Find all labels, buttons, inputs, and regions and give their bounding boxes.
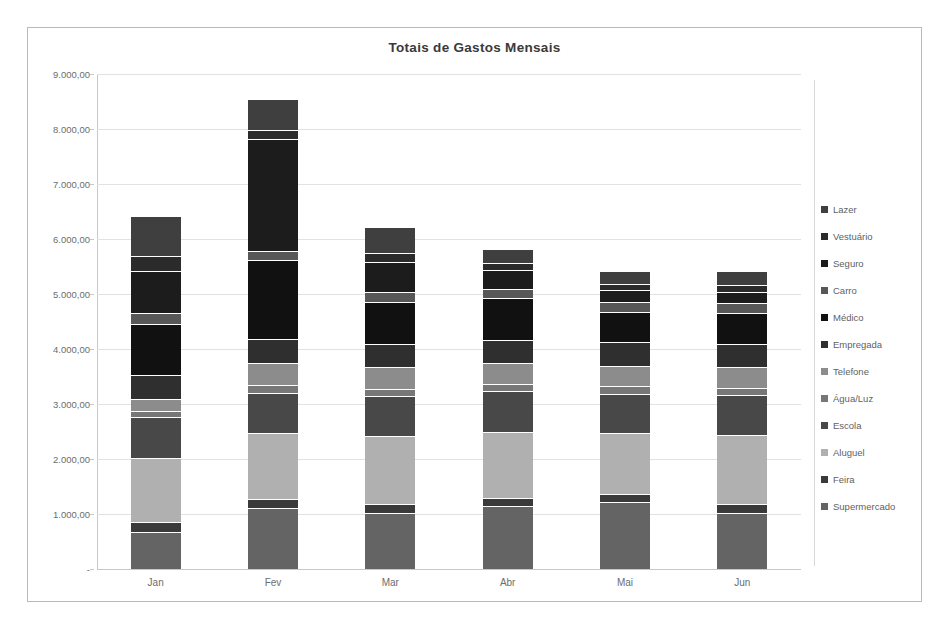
bar-segment[interactable] [483,340,533,363]
bar-segment[interactable] [131,399,181,411]
bar-jan[interactable] [131,216,181,569]
bar-segment[interactable] [717,271,767,285]
bar-segment[interactable] [365,344,415,367]
bar-segment[interactable] [131,532,181,569]
bar-segment[interactable] [600,386,650,393]
bar-segment[interactable] [483,432,533,498]
bar-segment[interactable] [248,99,298,130]
bar-segment[interactable] [131,417,181,458]
bar-segment[interactable] [717,285,767,292]
bar-segment[interactable] [365,396,415,437]
bar-segment[interactable] [600,302,650,312]
x-tick-label: Fev [233,577,313,588]
bar-segment[interactable] [365,253,415,261]
bar-mai[interactable] [600,271,650,569]
bar-segment[interactable] [365,262,415,292]
bar-segment[interactable] [248,130,298,139]
bar-segment[interactable] [365,302,415,344]
bar-segment[interactable] [600,342,650,365]
legend-item-label: Lazer [833,204,857,215]
legend-item-supermercado[interactable]: Supermercado [821,493,931,520]
bar-segment[interactable] [248,499,298,508]
bar-segment[interactable] [600,502,650,569]
y-tick-label: 8.000,00 [53,124,90,135]
bar-segment[interactable] [600,394,650,434]
bar-segment[interactable] [717,504,767,513]
legend-swatch-icon [821,260,828,267]
bar-segment[interactable] [365,436,415,503]
bar-segment[interactable] [248,260,298,339]
legend-item-m-dico[interactable]: Médico [821,304,931,331]
bar-segment[interactable] [365,227,415,253]
bar-segment[interactable] [131,216,181,256]
bar-segment[interactable] [131,271,181,313]
bar-segment[interactable] [248,385,298,393]
bar-segment[interactable] [717,388,767,395]
legend-item-lazer[interactable]: Lazer [821,196,931,223]
bar-segment[interactable] [248,393,298,433]
bar-segment[interactable] [717,303,767,313]
bar-segment[interactable] [365,292,415,302]
bar-segment[interactable] [248,508,298,569]
bar-segment[interactable] [483,498,533,506]
legend-item-vestu-rio[interactable]: Vestuário [821,223,931,250]
bar-segment[interactable] [365,367,415,389]
legend-item-empregada[interactable]: Empregada [821,331,931,358]
plot-area [97,74,801,569]
bar-segment[interactable] [483,270,533,289]
bar-segment[interactable] [717,292,767,304]
y-axis-line [97,74,98,569]
bar-segment[interactable] [248,363,298,386]
bar-segment[interactable] [248,339,298,363]
bar-segment[interactable] [483,391,533,432]
bar-segment[interactable] [600,284,650,291]
bar-segment[interactable] [248,433,298,498]
bar-segment[interactable] [600,271,650,284]
bar-segment[interactable] [717,344,767,367]
bar-segment[interactable] [600,312,650,343]
bar-segment[interactable] [717,435,767,504]
legend-swatch-icon [821,206,828,213]
bar-segment[interactable] [717,513,767,569]
legend-item-carro[interactable]: Carro [821,277,931,304]
bar-segment[interactable] [483,363,533,384]
bar-segment[interactable] [483,506,533,569]
legend-item-escola[interactable]: Escola [821,412,931,439]
bar-jun[interactable] [717,271,767,569]
bar-segment[interactable] [483,249,533,263]
legend-item-feira[interactable]: Feira [821,466,931,493]
bar-segment[interactable] [483,384,533,391]
chart-frame: Totais de Gastos Mensais 9.000,008.000,0… [27,27,922,602]
gridline [97,129,801,130]
legend-item-seguro[interactable]: Seguro [821,250,931,277]
bar-segment[interactable] [365,504,415,513]
bar-segment[interactable] [483,263,533,270]
bar-segment[interactable] [131,522,181,531]
bar-segment[interactable] [248,251,298,261]
bar-segment[interactable] [483,298,533,340]
bar-segment[interactable] [483,289,533,299]
bar-segment[interactable] [248,139,298,251]
bar-segment[interactable] [600,366,650,387]
bar-segment[interactable] [717,367,767,387]
bar-segment[interactable] [365,513,415,569]
bar-segment[interactable] [131,324,181,375]
bar-segment[interactable] [600,433,650,494]
bar-abr[interactable] [483,249,533,569]
bar-segment[interactable] [717,395,767,435]
legend-item-telefone[interactable]: Telefone [821,358,931,385]
bar-segment[interactable] [600,290,650,302]
legend-divider [814,80,815,566]
bar-segment[interactable] [600,494,650,502]
bar-segment[interactable] [131,375,181,398]
bar-segment[interactable] [717,313,767,344]
bar-segment[interactable] [131,458,181,522]
bar-segment[interactable] [131,256,181,272]
legend-item-aluguel[interactable]: Aluguel [821,439,931,466]
bar-segment[interactable] [131,313,181,324]
bar-segment[interactable] [131,411,181,418]
legend-item--gua-luz[interactable]: Água/Luz [821,385,931,412]
bar-mar[interactable] [365,227,415,569]
bar-segment[interactable] [365,389,415,396]
bar-fev[interactable] [248,99,298,569]
